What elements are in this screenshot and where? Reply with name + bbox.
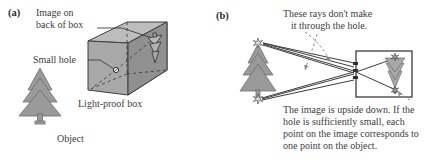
ray-top-blocked-1 xyxy=(263,43,354,63)
pinhole-marker xyxy=(113,67,118,72)
ray-top-through-hole-b xyxy=(263,45,354,73)
tree-base xyxy=(35,121,45,124)
leader-line-image-on-back xyxy=(97,28,152,38)
lightproof-box xyxy=(88,22,167,95)
object-tree-panel-b xyxy=(240,44,276,97)
internal-ray-dashed xyxy=(116,40,152,70)
image-point-top-marker xyxy=(391,53,399,61)
caption-line4: one point on the object. xyxy=(283,140,377,152)
label-small-hole: Small hole xyxy=(33,54,76,66)
tree-b-trunk xyxy=(256,90,260,97)
pinhole-aperture xyxy=(353,62,358,79)
tree-tier-top xyxy=(28,68,52,90)
annotation-arrow-lower xyxy=(305,34,317,70)
ray-bottom-through-hole xyxy=(262,72,354,98)
ray-bundle-from-bottom xyxy=(262,58,396,100)
inverted-tree-tier-top xyxy=(148,35,162,45)
ray-bottom-image-inside xyxy=(356,58,396,72)
internal-ray-dashed-2 xyxy=(92,70,116,88)
image-tree-tier-mid xyxy=(386,63,404,80)
inverted-image-tree-panel-b xyxy=(385,58,405,93)
ray-top-blocked-2 xyxy=(263,43,354,67)
object-point-bottom-marker xyxy=(253,94,263,104)
note-rays-line1: These rays don't make xyxy=(283,8,372,20)
object-point-top-marker xyxy=(253,38,263,48)
box-top-face xyxy=(88,22,167,43)
object-tree-panel-a xyxy=(19,68,61,124)
pinhole-box-side-view xyxy=(356,51,412,97)
inverted-tree-trunk xyxy=(153,33,157,37)
label-image-on-back-line2: back of box xyxy=(36,19,83,31)
ray-top-through-hole xyxy=(263,44,354,71)
tree-tier-bottom xyxy=(19,90,61,116)
box-side-face xyxy=(128,22,167,95)
caption-line2: hole is sufficiently small, each xyxy=(283,116,405,128)
tree-trunk xyxy=(38,114,43,122)
note-rays-line2: it through the hole. xyxy=(291,20,367,32)
inverted-tree-tier-mid xyxy=(150,42,161,55)
label-light-proof-box: Light-proof box xyxy=(78,98,142,110)
box-hidden-edge-bottom-back xyxy=(127,70,167,74)
tree-b-tier-top xyxy=(248,44,268,63)
tree-b-tier-mid xyxy=(243,53,273,75)
image-tree-tier-bottom xyxy=(385,58,405,72)
annotation-arrow-caption-to-image xyxy=(398,91,410,100)
image-tree-trunk xyxy=(394,88,397,93)
tree-b-tier-bottom xyxy=(240,64,276,91)
box-right-face xyxy=(128,22,167,95)
pinhole-camera-figure: (a) Image on back of box Small hole Ligh… xyxy=(0,0,424,163)
panel-b-label: (b) xyxy=(216,10,229,21)
label-object: Object xyxy=(57,133,84,145)
leader-line-small-hole xyxy=(88,60,114,69)
tree-tier-mid xyxy=(23,78,57,102)
panel-a-label: (a) xyxy=(8,7,20,18)
inverted-tree-tier-bottom xyxy=(152,51,159,63)
caption-line3: point on the image corresponds to xyxy=(283,128,419,140)
annotation-arrow-upper xyxy=(305,32,330,62)
image-point-bottom-marker xyxy=(391,86,399,94)
inverted-image-on-back-face xyxy=(148,33,162,63)
image-tree-tier-top xyxy=(388,71,402,88)
ray-bundle-from-top xyxy=(263,43,396,90)
label-image-on-back-line1: Image on xyxy=(36,7,74,19)
ray-top-image-inside xyxy=(356,72,396,90)
box-hidden-edge-bottom-front xyxy=(88,74,127,90)
caption-line1: The image is upside down. If the xyxy=(283,104,414,116)
ray-bottom-blocked-1 xyxy=(262,80,354,100)
ray-bottom-through-hole-b xyxy=(262,74,354,99)
box-front-face xyxy=(88,41,128,95)
